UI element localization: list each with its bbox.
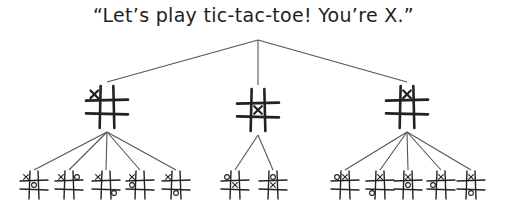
x-mark-icon	[91, 91, 99, 99]
board-level2-3-3	[394, 171, 422, 199]
o-mark-icon	[406, 183, 411, 188]
x-mark-icon	[439, 175, 444, 180]
o-mark-icon	[271, 175, 276, 180]
x-mark-icon	[403, 91, 411, 99]
x-mark-icon	[378, 175, 383, 180]
o-mark-icon	[130, 183, 135, 188]
board-level1-1	[86, 86, 128, 128]
board-level1-3	[386, 86, 428, 128]
board-level2-2-1	[221, 171, 249, 199]
board-level2-1-2	[55, 171, 83, 199]
x-mark-icon	[406, 175, 411, 180]
board-level2-2-2	[259, 171, 287, 199]
o-mark-icon	[174, 191, 179, 196]
o-mark-icon	[370, 191, 375, 196]
board-level2-3-1	[331, 171, 359, 199]
x-mark-icon	[469, 175, 474, 180]
x-mark-icon	[96, 175, 101, 180]
x-mark-icon	[343, 175, 348, 180]
board-level2-3-4	[427, 171, 455, 199]
board-level2-3-2	[366, 171, 394, 199]
board-level1-2	[237, 89, 279, 131]
o-mark-icon	[75, 175, 80, 180]
board-level2-1-3	[92, 171, 120, 199]
o-mark-icon	[431, 183, 436, 188]
x-mark-icon	[254, 106, 262, 114]
board-level2-1-5	[162, 171, 190, 199]
x-mark-icon	[271, 183, 276, 188]
x-mark-icon	[130, 175, 135, 180]
x-mark-icon	[233, 183, 238, 188]
o-mark-icon	[335, 175, 340, 180]
game-tree	[0, 0, 507, 214]
board-level2-3-5	[457, 171, 485, 199]
o-mark-icon	[469, 191, 474, 196]
o-mark-icon	[112, 191, 117, 196]
o-mark-icon	[32, 183, 37, 188]
board-level2-1-1	[20, 171, 48, 199]
x-mark-icon	[24, 175, 29, 180]
x-mark-icon	[59, 175, 64, 180]
x-mark-icon	[166, 175, 171, 180]
o-mark-icon	[225, 175, 230, 180]
board-level2-1-4	[126, 171, 154, 199]
